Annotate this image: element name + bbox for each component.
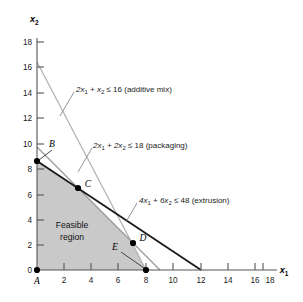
leader-line-additive-mix <box>60 92 74 116</box>
y-axis-title: x2 <box>29 14 39 26</box>
constraint-label-additive-mix: 2x1 + x2 ≤ 16 (additive mix) <box>75 85 172 95</box>
x-tick-6: 6 <box>116 276 121 285</box>
vertex-point-a <box>34 267 40 273</box>
y-tick-10: 10 <box>23 140 33 149</box>
y-tick-4: 4 <box>27 216 32 225</box>
x-tick-16: 16 <box>250 276 260 285</box>
y-tick-6: 6 <box>27 191 32 200</box>
vertex-point-b <box>34 158 40 164</box>
y-tick-2: 2 <box>27 241 32 250</box>
x-tick-labels: 2 4 6 8 10 12 14 16 18 <box>62 276 275 285</box>
vertex-label-a: A <box>33 276 40 286</box>
x-tick-2: 2 <box>62 276 67 285</box>
constraint-label-extrusion: 4x1 + 6x2 ≤ 48 (extrusion) <box>139 196 230 206</box>
vertex-label-b: B <box>49 139 55 149</box>
feasible-region-label-line2: region <box>60 232 84 242</box>
x-tick-10: 10 <box>168 276 178 285</box>
y-tick-18: 18 <box>23 38 33 47</box>
linear-programming-chart: 18 16 14 12 10 8 6 4 2 0 2 4 6 8 10 12 1… <box>0 0 303 302</box>
vertex-point-c <box>75 185 81 191</box>
vertex-label-d: D <box>139 233 147 243</box>
y-tick-8: 8 <box>27 165 32 174</box>
feasible-region-label-line1: Feasible <box>56 220 89 230</box>
x-tick-18: 18 <box>265 276 275 285</box>
x-tick-8: 8 <box>144 276 149 285</box>
x-tick-14: 14 <box>223 276 233 285</box>
leader-line-packaging <box>78 148 92 172</box>
leader-line-extrusion <box>126 203 137 222</box>
constraint-label-packaging: 2x1 + 2x2 ≤ 18 (packaging) <box>92 141 188 151</box>
y-tick-14: 14 <box>23 89 33 98</box>
vertex-point-d <box>130 240 136 246</box>
x-axis-title: x1 <box>279 265 289 277</box>
y-tick-0: 0 <box>27 266 32 275</box>
vertex-label-e: E <box>111 242 118 252</box>
x-tick-12: 12 <box>196 276 206 285</box>
vertex-point-e <box>143 267 149 273</box>
plot-svg: 18 16 14 12 10 8 6 4 2 0 2 4 6 8 10 12 1… <box>0 0 303 302</box>
y-tick-12: 12 <box>23 114 33 123</box>
vertex-label-c: C <box>85 179 92 189</box>
y-tick-16: 16 <box>23 63 33 72</box>
x-tick-4: 4 <box>89 276 94 285</box>
y-tick-labels: 18 16 14 12 10 8 6 4 2 0 <box>23 38 33 275</box>
